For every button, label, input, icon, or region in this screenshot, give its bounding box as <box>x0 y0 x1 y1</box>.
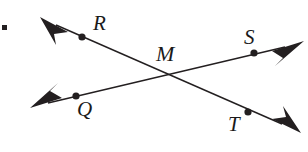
point-dot-R <box>78 33 85 40</box>
diagram-canvas <box>0 0 308 152</box>
point-dot-S <box>250 49 257 56</box>
arrowhead-upper-right <box>272 41 304 66</box>
point-label-T: T <box>228 114 240 135</box>
arrowhead-lower-right <box>272 106 301 133</box>
point-label-R: R <box>93 13 106 34</box>
point-dot-T <box>244 108 251 115</box>
point-label-M: M <box>156 43 174 65</box>
arrowhead-upper-left <box>40 17 68 45</box>
geometry-figure: R S M Q T <box>0 0 308 152</box>
list-bullet-square <box>2 25 7 30</box>
point-label-S: S <box>244 27 255 48</box>
point-label-Q: Q <box>77 99 92 120</box>
arrowhead-lower-left <box>30 83 62 108</box>
